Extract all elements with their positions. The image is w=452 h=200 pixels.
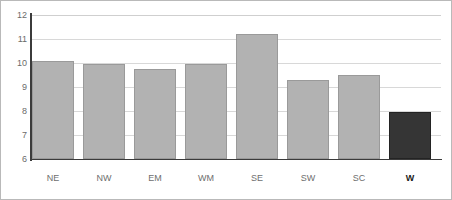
bar-NE [32, 61, 74, 159]
y-tick-8: 8 [5, 107, 27, 116]
plot-area [32, 15, 441, 159]
x-label-NE: NE [32, 173, 74, 183]
x-label-SE: SE [236, 173, 278, 183]
y-tick-6: 6 [5, 155, 27, 164]
x-label-EM: EM [134, 173, 176, 183]
y-tick-9: 9 [5, 83, 27, 92]
x-label-SW: SW [287, 173, 329, 183]
x-label-W: W [389, 173, 431, 183]
y-tick-12: 12 [5, 11, 27, 20]
bar-SC [338, 75, 380, 159]
bar-SE [236, 34, 278, 159]
bar-SW [287, 80, 329, 159]
bar-W [389, 112, 431, 159]
y-tick-11: 11 [5, 35, 27, 44]
y-tick-10: 10 [5, 59, 27, 68]
gridline-12 [32, 15, 441, 16]
bar-NW [83, 64, 125, 159]
bar-EM [134, 69, 176, 159]
bar-chart: 12 11 10 9 8 7 6 NE NW EM WM SE SW SC W [0, 0, 452, 200]
x-axis-line [30, 159, 442, 160]
x-label-SC: SC [338, 173, 380, 183]
y-tick-7: 7 [5, 131, 27, 140]
y-axis-tick-labels: 12 11 10 9 8 7 6 [1, 1, 27, 200]
bar-WM [185, 64, 227, 159]
x-label-NW: NW [83, 173, 125, 183]
y-axis-line [30, 13, 32, 161]
x-label-WM: WM [185, 173, 227, 183]
